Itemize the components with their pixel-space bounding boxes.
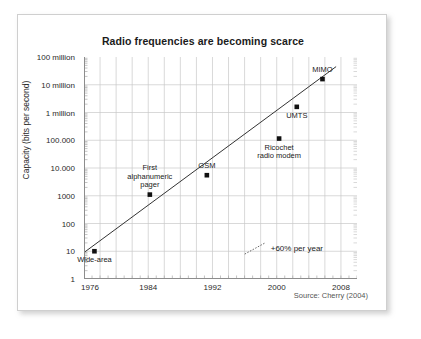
- chart-card: Radio frequencies are becoming scarce Ca…: [17, 14, 387, 311]
- y-tick-label: 1 million: [46, 108, 75, 117]
- y-tick-label: 100: [62, 219, 75, 228]
- source-note: Source: Cherry (2004): [294, 291, 368, 300]
- data-point-label: Ricochet radio modem: [257, 144, 301, 161]
- y-tick-label: 10.000: [51, 164, 75, 173]
- data-point-label: GSM: [198, 162, 215, 171]
- trend-annotation: +60% per year: [271, 244, 323, 253]
- y-tick-label: 10 million: [41, 80, 75, 89]
- x-tick-label: 1984: [139, 283, 157, 292]
- plot-area: Wide-areaFirst alphanumeric pagerGSMRico…: [84, 57, 357, 279]
- y-tick-label: 1000: [57, 191, 75, 200]
- data-point-label: UMTS: [286, 112, 307, 121]
- x-tick-label: 2000: [268, 283, 286, 292]
- data-point-label: First alphanumeric pager: [127, 164, 172, 190]
- x-tick-label: 1992: [204, 283, 222, 292]
- data-point-label: Wide-area: [77, 256, 112, 265]
- y-tick-label: 100 million: [37, 53, 75, 62]
- y-tick-label: 100.000: [46, 136, 75, 145]
- y-tick-label: 10: [66, 247, 75, 256]
- y-axis-ticks: 110100100010.000100.0001 million10 milli…: [18, 57, 80, 279]
- y-tick-label: 1: [71, 275, 75, 284]
- data-point-label: MIMO: [312, 66, 332, 75]
- chart-title: Radio frequencies are becoming scarce: [18, 35, 388, 47]
- figure-root: Radio frequencies are becoming scarce Ca…: [0, 0, 421, 339]
- x-tick-label: 1976: [81, 283, 99, 292]
